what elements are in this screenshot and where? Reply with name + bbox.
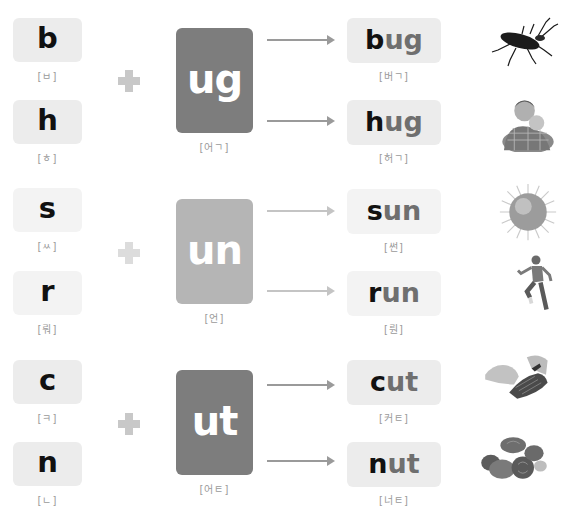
rime-pronunciation: [언] (176, 310, 253, 325)
word: hug (365, 108, 423, 135)
onset-pronunciation: [ㅎ] (13, 150, 82, 165)
word-onset: s (367, 195, 383, 226)
word-rime: ug (384, 24, 423, 55)
plus-icon (118, 242, 140, 264)
onset-letter: b (37, 24, 58, 53)
onset-pronunciation: [뤄] (13, 321, 82, 336)
onset-pronunciation: [ㅆ] (13, 238, 82, 253)
word-pronunciation: [허ㄱ] (347, 150, 441, 165)
onset-box-c: c (13, 360, 82, 404)
word: sun (367, 197, 422, 224)
onset-letter: n (37, 448, 58, 477)
onset-pronunciation: [ㅋ] (13, 410, 82, 425)
word-rime: un (381, 277, 419, 308)
word-onset: n (368, 448, 387, 479)
arrow-right-icon (267, 35, 335, 45)
word-box-hug: hug (347, 100, 441, 145)
word-rime: ut (388, 448, 420, 479)
word-box-sun: sun (347, 189, 441, 234)
run-image (500, 254, 572, 314)
word-pronunciation: [버ㄱ] (347, 68, 441, 83)
nut-image (478, 428, 550, 488)
rime-pronunciation: [어ㄱ] (176, 139, 253, 154)
word-onset: c (370, 366, 386, 397)
word-box-cut: cut (347, 360, 441, 405)
word-pronunciation: [커ㅌ] (347, 410, 441, 425)
word-rime: ut (386, 366, 418, 397)
rime-text: ut (192, 401, 238, 441)
arrow-right-icon (267, 206, 335, 216)
sun-image (492, 182, 564, 242)
word-pronunciation: [너ㅌ] (347, 492, 441, 507)
word: cut (370, 368, 418, 395)
word: bug (365, 26, 423, 53)
arrow-right-icon (267, 380, 335, 390)
cut-image (482, 348, 554, 408)
onset-box-h: h (13, 100, 82, 144)
word-pronunciation: [뤈] (347, 321, 441, 336)
onset-box-s: s (13, 188, 82, 232)
arrow-right-icon (267, 456, 335, 466)
word-onset: h (365, 106, 384, 137)
rime-text: un (187, 230, 242, 270)
rime-card-ut: ut (176, 370, 253, 475)
word-onset: b (365, 24, 384, 55)
word-rime: ug (384, 106, 423, 137)
onset-box-n: n (13, 442, 82, 486)
onset-pronunciation: [ㅂ] (13, 68, 82, 83)
rime-text: ug (187, 59, 242, 99)
word: run (368, 279, 420, 306)
rime-card-un: un (176, 199, 253, 304)
arrow-right-icon (267, 286, 335, 296)
onset-letter: s (39, 194, 56, 223)
plus-icon (118, 70, 140, 92)
word-pronunciation: [썬] (347, 239, 441, 254)
plus-icon (118, 413, 140, 435)
onset-letter: h (37, 106, 58, 135)
word-box-run: run (347, 271, 441, 316)
onset-pronunciation: [ㄴ] (13, 492, 82, 507)
onset-letter: c (39, 366, 56, 395)
rime-card-ug: ug (176, 28, 253, 133)
bug-image (488, 14, 560, 74)
word-box-bug: bug (347, 18, 441, 63)
word-box-nut: nut (347, 442, 441, 487)
onset-box-b: b (13, 18, 82, 62)
onset-box-r: r (13, 271, 82, 315)
onset-letter: r (40, 277, 54, 306)
word-rime: un (383, 195, 421, 226)
hug-image (492, 92, 564, 152)
word-onset: r (368, 277, 381, 308)
rime-pronunciation: [어ㅌ] (176, 481, 253, 496)
word: nut (368, 450, 419, 477)
arrow-right-icon (267, 116, 335, 126)
